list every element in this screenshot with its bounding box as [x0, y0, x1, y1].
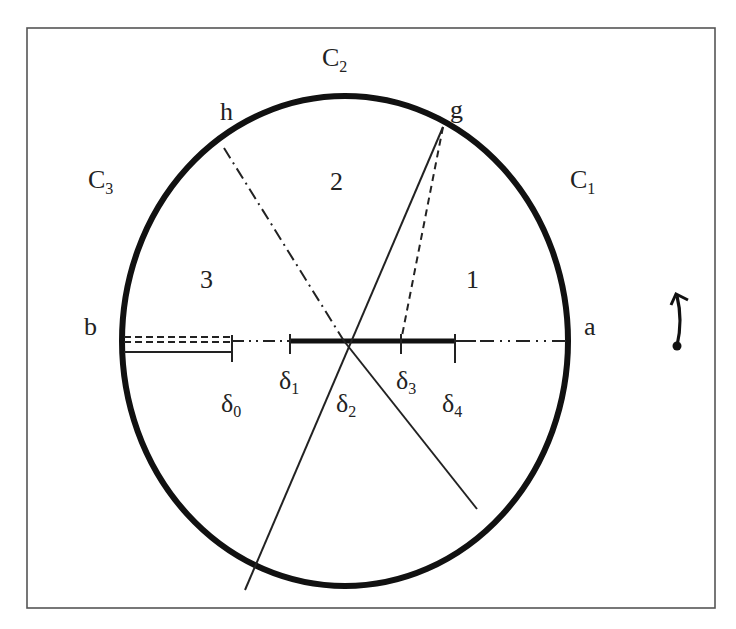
- label-g: g: [450, 95, 463, 124]
- label-b: b: [84, 312, 97, 341]
- sector-label-3: 3: [200, 265, 213, 294]
- sector-label-2: 2: [330, 167, 343, 196]
- diagram-frame: [27, 28, 715, 608]
- sector-label-1: 1: [466, 265, 479, 294]
- label-a: a: [584, 312, 596, 341]
- circle-sector-diagram: C2 C3 C1 h g b a 2 3 1 δ0 δ1 δ2 δ3 δ4: [0, 0, 736, 629]
- label-h: h: [220, 97, 233, 126]
